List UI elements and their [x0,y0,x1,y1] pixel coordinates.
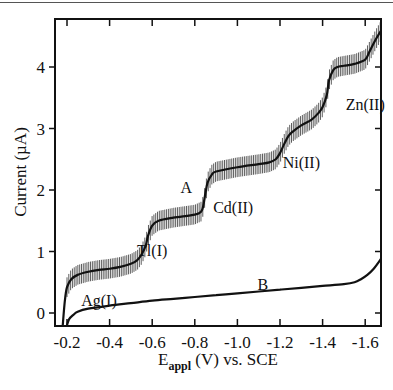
annotation-b: B [258,276,269,293]
polarogram-chart: -0.2-0.4-0.6-0.8-1.0-1.2-1.4-1.601234 AB… [0,0,393,390]
x-axis-title-rest: (V) vs. SCE [191,350,278,369]
x-tick-label: -0.2 [54,333,81,352]
y-tick-label: 2 [37,181,46,200]
y-tick-label: 3 [37,120,46,139]
y-axis-title: Current (µA) [11,127,30,217]
annotation-ag-i: Ag(I) [81,292,117,310]
annotation-a: A [180,179,192,196]
series-B-line [67,250,387,325]
x-tick-label: -1.4 [309,333,336,352]
x-tick-label: -1.6 [352,333,379,352]
x-axis-title: Eappl (V) vs. SCE [158,350,278,373]
annotation-ni-ii: Ni(II) [283,154,320,172]
x-axis-title-sub: appl [168,359,191,373]
plot-frame [55,19,381,326]
x-axis-title-main: E [158,350,168,369]
y-tick-label: 0 [37,304,46,323]
x-tick-label: -0.4 [96,333,123,352]
series-layer [63,19,387,325]
annotation-tl-i: Tl(I) [137,242,167,260]
annotations-layer: ABAg(I)Tl(I)Cd(II)Ni(II)Zn(II) [81,96,385,310]
annotation-cd-ii: Cd(II) [213,199,253,217]
annotation-zn-ii: Zn(II) [346,96,385,114]
y-tick-label: 1 [37,243,46,262]
y-tick-label: 4 [37,58,46,77]
